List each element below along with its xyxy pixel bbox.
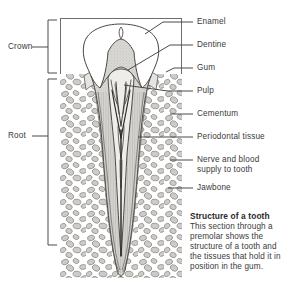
- bracket-label-root: Root: [8, 131, 26, 140]
- root-bracket: [32, 79, 57, 245]
- crown-bracket: [32, 20, 57, 73]
- bracket-label-crown: Crown: [8, 42, 32, 51]
- label-periodontal-tissue: Periodontal tissue: [197, 132, 265, 142]
- caption-block: Structure of a tooth This section throug…: [190, 211, 289, 272]
- tooth-cross-section-illustration: [60, 18, 182, 278]
- label-cementum: Cementum: [197, 109, 238, 119]
- figure-canvas: Crown Root Enamel Dentine Gum Pulp Cemen…: [0, 0, 291, 295]
- label-nerve-and-blood-supply: Nerve and blood supply to tooth: [197, 155, 259, 174]
- label-enamel: Enamel: [197, 17, 226, 27]
- label-dentine: Dentine: [197, 40, 226, 50]
- caption-title: Structure of a tooth: [190, 211, 289, 221]
- label-pulp: Pulp: [197, 86, 214, 96]
- label-gum: Gum: [197, 63, 215, 73]
- caption-description: This section through a premolar shows th…: [190, 222, 289, 272]
- label-jawbone: Jawbone: [197, 183, 231, 193]
